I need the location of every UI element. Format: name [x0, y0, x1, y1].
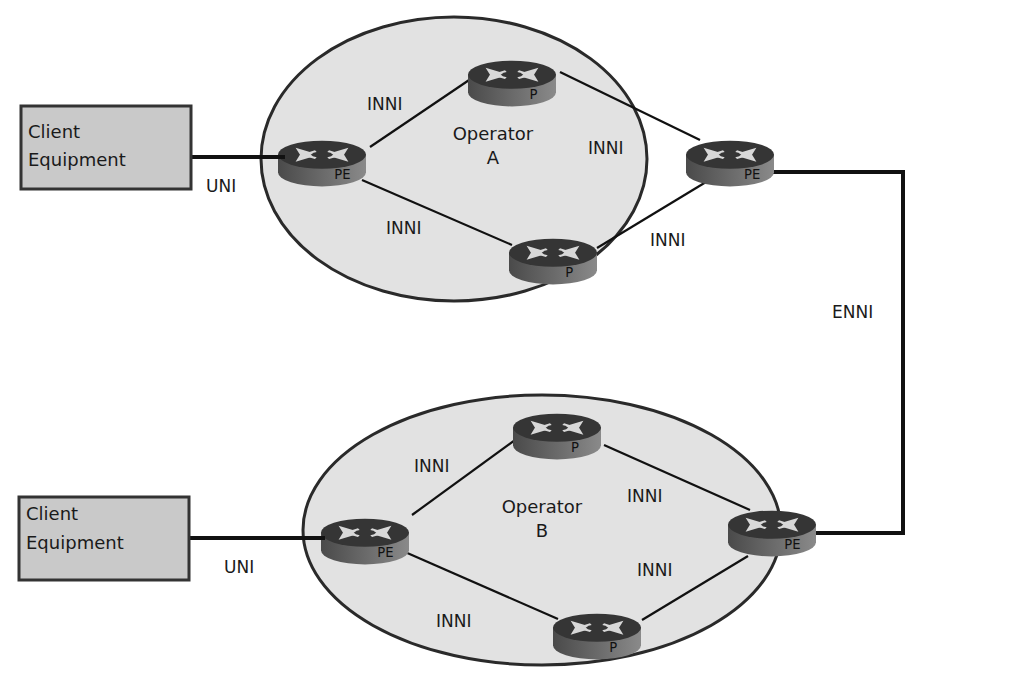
client-a-line1: Client — [28, 121, 80, 142]
router-icon-a-p-top[interactable]: P — [468, 61, 556, 107]
operator-a-name-line2: A — [487, 147, 500, 168]
client-b-line1: Client — [26, 503, 78, 524]
a-inni-label-3: INNI — [386, 218, 421, 238]
b-inni-label-2: INNI — [627, 486, 662, 506]
a-inni-label-1: INNI — [367, 94, 402, 114]
b-inni-label-1: INNI — [414, 456, 449, 476]
client-equipment-a-box[interactable] — [21, 106, 191, 189]
uni-label-a: UNI — [206, 176, 236, 196]
router-icon-a-pe-right[interactable]: PE — [686, 141, 774, 187]
router-icon-a-pe-left[interactable]: PE — [278, 141, 366, 187]
client-a-line2: Equipment — [28, 149, 126, 170]
router-icon-b-pe-left[interactable]: PE — [321, 519, 409, 565]
svg-text:PE: PE — [377, 545, 393, 560]
router-icon-b-p-bottom[interactable]: P — [553, 614, 641, 660]
b-inni-label-4: INNI — [637, 560, 672, 580]
client-b-line2: Equipment — [26, 532, 124, 553]
operator-b-name-line1: Operator — [502, 496, 583, 517]
svg-text:P: P — [571, 440, 579, 455]
uni-label-b: UNI — [224, 557, 254, 577]
operator-a-name-line1: Operator — [453, 123, 534, 144]
a-inni-label-4: INNI — [650, 230, 685, 250]
router-icon-b-p-top[interactable]: P — [513, 414, 601, 460]
svg-text:P: P — [530, 87, 538, 102]
router-icon-a-p-bottom[interactable]: P — [509, 239, 597, 285]
network-diagram: ENNI INNI INNI INNI INNI Operator A PE P… — [0, 0, 1024, 693]
a-inni-label-2: INNI — [588, 138, 623, 158]
svg-text:P: P — [609, 640, 617, 655]
router-icon-b-pe-right[interactable]: PE — [728, 511, 816, 557]
svg-text:PE: PE — [784, 537, 800, 552]
b-inni-label-3: INNI — [436, 611, 471, 631]
operator-b-name-line2: B — [536, 520, 548, 541]
svg-text:PE: PE — [334, 167, 350, 182]
svg-text:PE: PE — [744, 167, 760, 182]
svg-text:P: P — [565, 265, 573, 280]
enni-label: ENNI — [832, 302, 873, 322]
enni-link — [772, 172, 903, 533]
